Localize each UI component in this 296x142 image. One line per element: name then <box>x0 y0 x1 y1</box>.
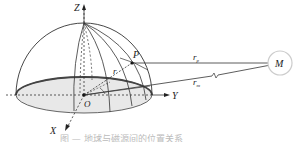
x-arrow-icon <box>65 124 70 131</box>
figure-caption: 图 — 地球与磁源间的位置关系 <box>60 134 260 142</box>
r-vector-label: r <box>113 66 117 76</box>
point-p-label: P <box>132 49 139 60</box>
point-m-label: M <box>274 58 284 69</box>
hemisphere-diagram: Z Y X O P M r rp rm <box>0 0 296 142</box>
rp-subscript: p <box>196 58 200 63</box>
y-axis-label: Y <box>172 90 179 101</box>
x-axis-label: X <box>49 125 57 136</box>
origin-label: O <box>84 99 91 109</box>
rm-break-mark <box>212 73 218 78</box>
z-axis-label: Z <box>74 2 80 13</box>
meridian-hidden-2 <box>84 23 92 80</box>
rp-label: rp <box>193 52 200 63</box>
z-arrow-icon <box>82 4 86 10</box>
rm-line-b <box>218 64 276 75</box>
y-arrow-icon <box>164 93 170 97</box>
rm-subscript: m <box>197 83 201 88</box>
